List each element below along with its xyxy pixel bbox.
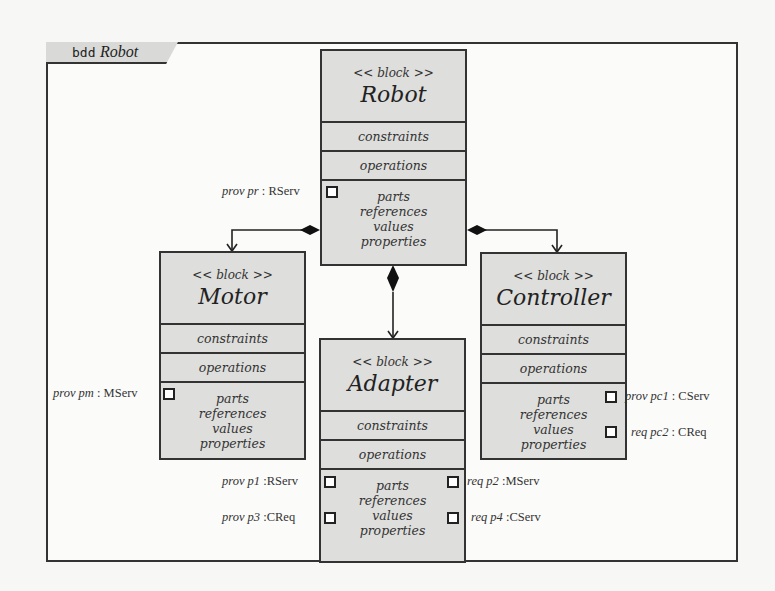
- block-header: << block >> Motor: [161, 253, 304, 325]
- body-references: references: [161, 406, 304, 421]
- port-label-pc2: req pc2 : CReq: [631, 425, 707, 440]
- block-adapter[interactable]: << block >> Adapter constraints operatio…: [319, 338, 466, 563]
- port-pc1[interactable]: [605, 391, 617, 403]
- block-name: Adapter: [348, 371, 438, 396]
- body-parts: parts: [321, 478, 464, 493]
- body-references: references: [322, 204, 465, 219]
- body-values: values: [161, 421, 304, 436]
- block-header: << block >> Controller: [482, 254, 625, 326]
- port-label-p4: req p4 :CServ: [471, 510, 541, 525]
- body-properties: properties: [322, 234, 465, 249]
- stereotype-label: << block >>: [353, 66, 434, 80]
- body-references: references: [482, 407, 625, 422]
- block-name: Motor: [198, 284, 266, 309]
- block-header: << block >> Robot: [322, 51, 465, 123]
- stereotype-label: << block >>: [513, 269, 594, 283]
- body-parts: parts: [161, 391, 304, 406]
- port-pr[interactable]: [326, 186, 338, 198]
- port-label-p1: prov p1 :RServ: [222, 474, 298, 489]
- port-label-pm: prov pm : MServ: [53, 386, 138, 401]
- composition-diamond-icon: [300, 225, 320, 235]
- stereotype-label: << block >>: [352, 355, 433, 369]
- compartment-body: parts references values properties: [321, 470, 464, 561]
- composition-diamond-icon: [467, 225, 487, 235]
- connector-robot-motor: [232, 230, 307, 251]
- port-p1[interactable]: [324, 476, 336, 488]
- port-label-p3: prov p3 :CReq: [222, 510, 295, 525]
- body-properties: properties: [482, 437, 625, 452]
- port-p3[interactable]: [324, 512, 336, 524]
- stereotype-label: << block >>: [192, 268, 273, 282]
- body-values: values: [321, 508, 464, 523]
- body-parts: parts: [482, 392, 625, 407]
- port-label-pc1: prov pc1 : CServ: [625, 389, 710, 404]
- block-robot[interactable]: << block >> Robot constraints operations…: [320, 49, 467, 266]
- compartment-operations: operations: [161, 354, 304, 383]
- body-parts: parts: [322, 189, 465, 204]
- compartment-operations: operations: [321, 441, 464, 470]
- port-pc2[interactable]: [605, 426, 617, 438]
- block-name: Controller: [496, 285, 610, 310]
- port-p2[interactable]: [447, 476, 459, 488]
- compartment-constraints: constraints: [161, 325, 304, 354]
- compartment-constraints: constraints: [482, 326, 625, 355]
- port-pm[interactable]: [163, 388, 175, 400]
- body-properties: properties: [161, 436, 304, 451]
- body-references: references: [321, 493, 464, 508]
- compartment-constraints: constraints: [322, 123, 465, 152]
- port-p4[interactable]: [447, 512, 459, 524]
- body-properties: properties: [321, 523, 464, 538]
- body-values: values: [322, 219, 465, 234]
- compartment-body: parts references values properties: [482, 384, 625, 458]
- block-motor[interactable]: << block >> Motor constraints operations…: [159, 251, 306, 460]
- port-label-p2: req p2 :MServ: [467, 474, 539, 489]
- compartment-body: parts references values properties: [161, 383, 304, 458]
- compartment-body: parts references values properties: [322, 181, 465, 264]
- block-name: Robot: [361, 82, 427, 107]
- connector-robot-controller: [480, 230, 557, 252]
- compartment-operations: operations: [322, 152, 465, 181]
- port-label-pr: prov pr : RServ: [222, 184, 300, 199]
- composition-diamond-icon: [387, 265, 399, 292]
- body-values: values: [482, 422, 625, 437]
- compartment-constraints: constraints: [321, 412, 464, 441]
- block-header: << block >> Adapter: [321, 340, 464, 412]
- compartment-operations: operations: [482, 355, 625, 384]
